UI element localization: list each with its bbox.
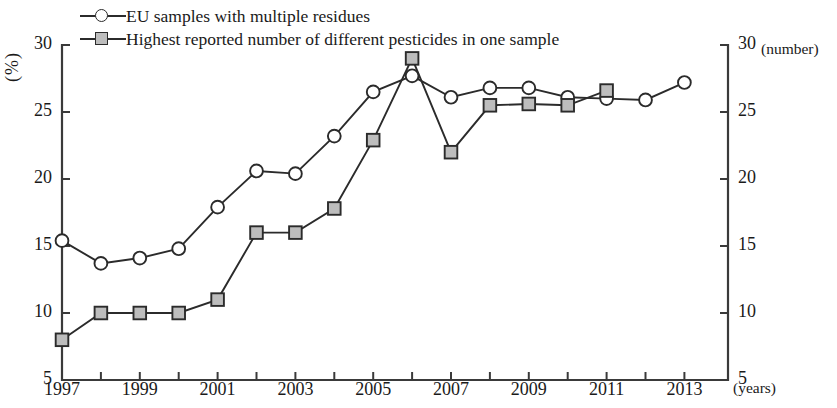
- data-point-square[interactable]: [406, 52, 419, 65]
- series-line-eu-samples: [62, 76, 684, 264]
- data-point-square[interactable]: [134, 307, 147, 320]
- data-point-circle[interactable]: [250, 165, 263, 178]
- data-point-circle[interactable]: [172, 242, 185, 255]
- data-point-square[interactable]: [250, 226, 263, 239]
- data-point-square[interactable]: [561, 99, 574, 112]
- data-point-square[interactable]: [484, 99, 497, 112]
- data-point-circle[interactable]: [367, 86, 380, 99]
- data-point-circle[interactable]: [484, 81, 497, 94]
- data-point-circle[interactable]: [328, 130, 341, 143]
- data-point-circle[interactable]: [445, 91, 458, 104]
- data-point-square[interactable]: [95, 307, 108, 320]
- data-point-square[interactable]: [367, 134, 380, 147]
- data-point-square[interactable]: [211, 293, 224, 306]
- data-point-square[interactable]: [523, 98, 536, 111]
- data-point-circle[interactable]: [639, 94, 652, 107]
- data-point-square[interactable]: [445, 146, 458, 159]
- data-point-square[interactable]: [328, 202, 341, 215]
- data-point-square[interactable]: [56, 334, 69, 347]
- chart-root: EU samples with multiple residues Highes…: [0, 0, 837, 408]
- data-point-circle[interactable]: [95, 257, 108, 270]
- data-point-circle[interactable]: [211, 201, 224, 214]
- data-point-circle[interactable]: [678, 76, 691, 89]
- data-point-circle[interactable]: [133, 252, 146, 265]
- data-point-square[interactable]: [172, 307, 185, 320]
- data-point-circle[interactable]: [522, 81, 535, 94]
- data-point-square[interactable]: [600, 84, 613, 97]
- data-point-circle[interactable]: [289, 167, 302, 180]
- data-point-square[interactable]: [289, 226, 302, 239]
- data-point-circle[interactable]: [56, 234, 69, 247]
- chart-plot-area: [0, 0, 837, 408]
